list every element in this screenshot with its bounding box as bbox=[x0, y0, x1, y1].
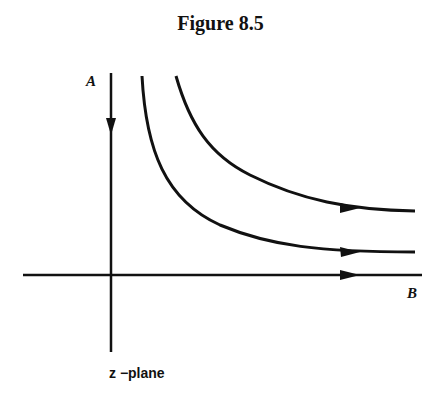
inner-curve bbox=[142, 76, 415, 252]
plane-caption: z −plane bbox=[109, 365, 165, 381]
inner-curve-arrow-icon bbox=[340, 247, 360, 257]
diagram-canvas: A B z −plane bbox=[0, 0, 441, 405]
horizontal-axis-label: B bbox=[406, 285, 417, 301]
horizontal-axis-arrow-icon bbox=[340, 270, 360, 280]
outer-curve bbox=[176, 76, 415, 211]
outer-curve-arrow-icon bbox=[340, 203, 360, 213]
vertical-axis-arrow-icon bbox=[106, 118, 116, 135]
vertical-axis-label: A bbox=[85, 73, 96, 89]
